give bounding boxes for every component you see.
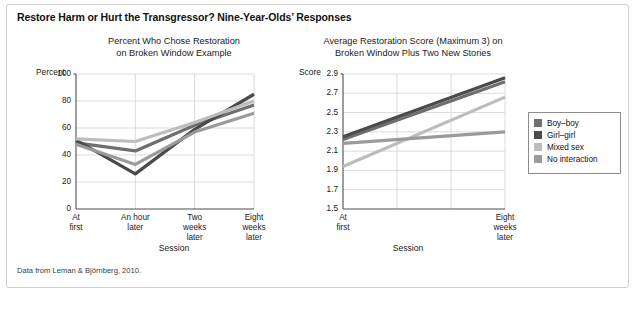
legend-label-mixed-sex: Mixed sex bbox=[547, 143, 584, 152]
y-tick-label: 1.7 bbox=[303, 185, 338, 194]
legend: Boy–boy Girl–girl Mixed sex No interacti… bbox=[528, 112, 621, 174]
legend-label-boy-boy: Boy–boy bbox=[547, 119, 579, 128]
x-tick-label: Twoweekslater bbox=[169, 213, 221, 243]
x-axis-title-right: Session bbox=[313, 243, 503, 253]
legend-swatch-girl-girl bbox=[534, 131, 542, 139]
x-tick-label: Eightweekslater bbox=[479, 213, 531, 243]
y-tick-label: 1.5 bbox=[303, 204, 338, 213]
x-axis-title-left: Session bbox=[74, 243, 274, 253]
legend-item-no-interaction: No interaction bbox=[534, 153, 614, 165]
y-tick-label: 2.9 bbox=[303, 69, 338, 78]
y-tick-label: 60 bbox=[36, 123, 71, 132]
x-tick-label: An hourlater bbox=[109, 213, 161, 233]
y-tick-label: 2.3 bbox=[303, 127, 338, 136]
y-tick-label: 40 bbox=[36, 150, 71, 159]
y-tick-label: 80 bbox=[36, 96, 71, 105]
x-tick-label: Atfirst bbox=[50, 213, 102, 233]
figure-title: Restore Harm or Hurt the Transgressor? N… bbox=[17, 11, 351, 23]
y-tick-label: 2.1 bbox=[303, 146, 338, 155]
x-tick-label: Eightweekslater bbox=[228, 213, 280, 243]
chart-panel-right: Average Restoration Score (Maximum 3) on… bbox=[293, 36, 523, 266]
y-tick-label: 2.5 bbox=[303, 108, 338, 117]
legend-label-girl-girl: Girl–girl bbox=[547, 131, 575, 140]
legend-item-girl-girl: Girl–girl bbox=[534, 129, 614, 141]
figure-container: Restore Harm or Hurt the Transgressor? N… bbox=[0, 0, 635, 310]
y-tick-label: 20 bbox=[36, 177, 71, 186]
y-tick-label: 100 bbox=[36, 69, 71, 78]
legend-item-mixed-sex: Mixed sex bbox=[534, 141, 614, 153]
legend-item-boy-boy: Boy–boy bbox=[534, 117, 614, 129]
y-tick-label: 2.7 bbox=[303, 88, 338, 97]
legend-label-no-interaction: No interaction bbox=[547, 155, 598, 164]
x-tick-label: Atfirst bbox=[317, 213, 369, 233]
legend-swatch-mixed-sex bbox=[534, 143, 542, 151]
y-tick-label: 0 bbox=[36, 204, 71, 213]
y-tick-label: 1.9 bbox=[303, 165, 338, 174]
chart-panel-left: Percent Who Chose Restoration on Broken … bbox=[14, 36, 289, 266]
figure-footer: Data from Leman & Björnberg, 2010. bbox=[17, 266, 141, 275]
legend-swatch-no-interaction bbox=[534, 155, 542, 163]
legend-swatch-boy-boy bbox=[534, 119, 542, 127]
